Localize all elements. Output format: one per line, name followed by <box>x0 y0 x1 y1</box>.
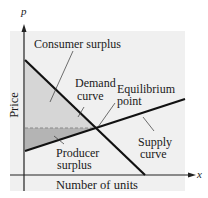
supply-curve-label-2: curve <box>140 147 167 161</box>
demand-curve-label-2: curve <box>77 89 104 103</box>
y-axis-arrow-icon <box>22 24 27 32</box>
consumer-surplus-label: Consumer surplus <box>34 37 121 51</box>
y-axis-title: Price <box>7 92 21 118</box>
demand-curve-label-1: Demand <box>75 76 116 90</box>
supply-demand-diagram: p x Price Number of units Consumer surpl… <box>0 0 208 198</box>
x-variable-label: x <box>196 168 202 180</box>
equilibrium-label-2: point <box>117 94 142 108</box>
producer-surplus-label-2: surplus <box>57 158 92 172</box>
y-variable-label: p <box>20 5 27 17</box>
x-axis-arrow-icon <box>188 173 196 178</box>
x-axis-title: Number of units <box>56 178 138 192</box>
